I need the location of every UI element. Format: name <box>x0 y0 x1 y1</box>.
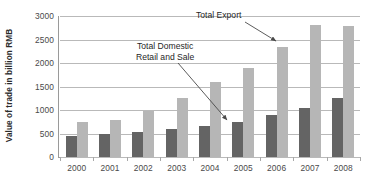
x-tick-2 <box>127 157 128 161</box>
x-label-2005: 2005 <box>227 163 260 179</box>
x-label-2003: 2003 <box>160 163 193 179</box>
bar-2005-series-0 <box>232 122 243 157</box>
x-tick-6 <box>260 157 261 161</box>
bar-2006-series-1 <box>277 47 288 157</box>
bar-2001-series-1 <box>110 120 121 157</box>
bar-2000-series-0 <box>66 136 77 157</box>
plot-area <box>60 16 360 157</box>
bar-group-2008 <box>327 16 360 157</box>
annotation-total-export: Total Export <box>196 10 241 21</box>
x-tick-8 <box>327 157 328 161</box>
bar-2004-series-1 <box>210 82 221 157</box>
bar-group-2005 <box>227 16 260 157</box>
x-label-2002: 2002 <box>127 163 160 179</box>
bar-2007-series-0 <box>299 108 310 157</box>
bar-2003-series-0 <box>166 129 177 157</box>
annotation-total-domestic-line1: Total Domestic <box>136 41 194 52</box>
y-axis-title: Value of trade in billion RMB <box>6 28 15 141</box>
x-tick-9 <box>360 157 361 161</box>
bar-group-2002 <box>127 16 160 157</box>
y-tick-1500: 1500 <box>20 82 54 92</box>
x-label-2004: 2004 <box>193 163 226 179</box>
y-tick-500: 500 <box>20 129 54 139</box>
y-axis-line <box>58 16 59 157</box>
bar-group-2006 <box>260 16 293 157</box>
bar-2005-series-1 <box>243 68 254 157</box>
x-tick-1 <box>93 157 94 161</box>
x-tick-4 <box>193 157 194 161</box>
y-tick-0: 0 <box>20 152 54 162</box>
y-tick-3000: 3000 <box>20 11 54 21</box>
bar-group-2004 <box>193 16 226 157</box>
x-tick-0 <box>60 157 61 161</box>
x-tick-3 <box>160 157 161 161</box>
bar-2002-series-0 <box>132 132 143 157</box>
bar-2002-series-1 <box>143 111 154 157</box>
bar-groups <box>60 16 360 157</box>
annotation-total-domestic-line2: Retail and Sale <box>136 52 194 63</box>
bar-2006-series-0 <box>266 115 277 157</box>
bar-2008-series-0 <box>332 98 343 157</box>
bar-chart: Value of trade in billion RMB 0500100015… <box>0 0 370 194</box>
x-tick-7 <box>293 157 294 161</box>
bar-2000-series-1 <box>77 122 88 157</box>
x-label-2007: 2007 <box>293 163 326 179</box>
x-label-2000: 2000 <box>60 163 93 179</box>
y-tick-2000: 2000 <box>20 58 54 68</box>
x-tick-5 <box>227 157 228 161</box>
y-tick-1000: 1000 <box>20 105 54 115</box>
bar-2008-series-1 <box>343 26 354 157</box>
y-axis-title-wrap: Value of trade in billion RMB <box>0 0 20 170</box>
bar-2001-series-0 <box>99 134 110 157</box>
x-label-2008: 2008 <box>327 163 360 179</box>
annotation-total-domestic: Total Domestic Retail and Sale <box>136 41 194 63</box>
bar-2007-series-1 <box>310 25 321 157</box>
bar-group-2000 <box>60 16 93 157</box>
x-axis-tick-labels: 200020012002200320042005200620072008 <box>60 163 360 179</box>
bar-group-2001 <box>93 16 126 157</box>
x-label-2006: 2006 <box>260 163 293 179</box>
bar-group-2003 <box>160 16 193 157</box>
bar-2003-series-1 <box>177 98 188 157</box>
bar-group-2007 <box>293 16 326 157</box>
y-axis-tick-labels: 050010001500200025003000 <box>18 0 54 170</box>
bar-2004-series-0 <box>199 126 210 157</box>
annotation-total-export-text: Total Export <box>196 10 241 21</box>
x-label-2001: 2001 <box>93 163 126 179</box>
y-tick-2500: 2500 <box>20 35 54 45</box>
